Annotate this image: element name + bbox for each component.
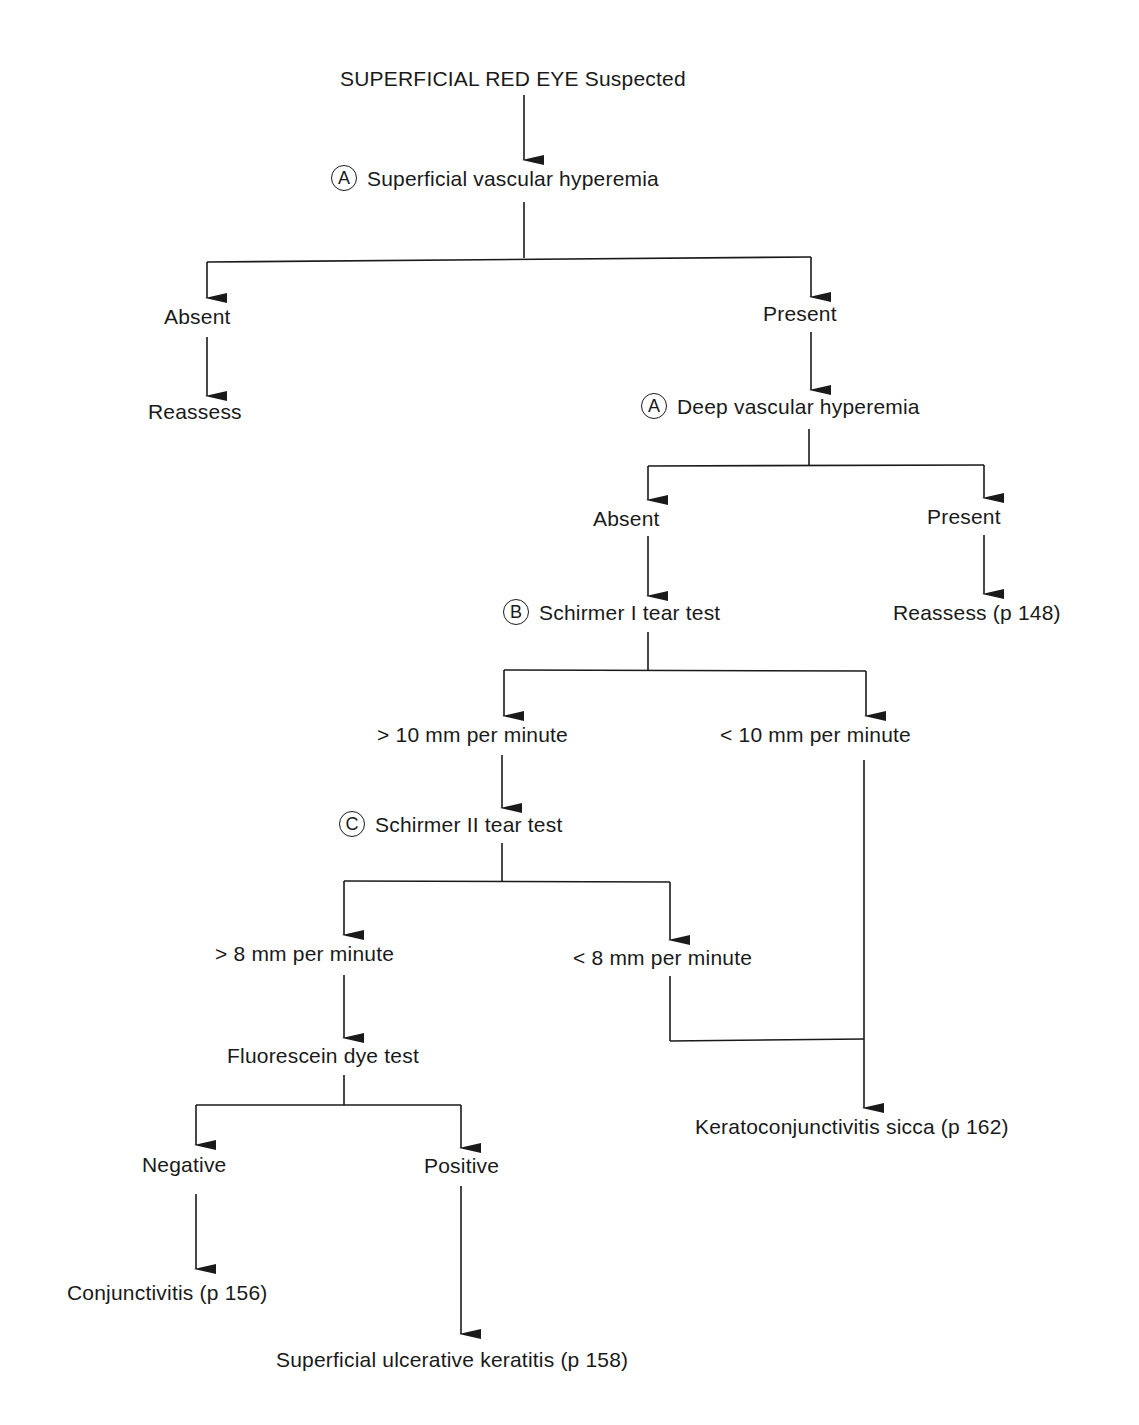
node-superficial-ulcerative-keratitis: Superficial ulcerative keratitis (p 158) bbox=[276, 1349, 628, 1370]
node-dv-present: Present bbox=[927, 506, 1001, 527]
node-gt-8mm: > 8 mm per minute bbox=[215, 943, 394, 964]
flowchart-connectors bbox=[0, 0, 1139, 1425]
step-badge-a: A bbox=[641, 393, 667, 419]
node-lt-8mm: < 8 mm per minute bbox=[573, 947, 752, 968]
step-badge-a: A bbox=[331, 165, 357, 191]
step-badge-b: B bbox=[503, 599, 529, 625]
node-fluorescein-dye-test: Fluorescein dye test bbox=[227, 1045, 419, 1066]
node-dv-absent: Absent bbox=[593, 508, 660, 529]
node-deep-vascular-hyperemia: ADeep vascular hyperemia bbox=[641, 395, 920, 421]
node-superficial-vascular-hyperemia: ASuperficial vascular hyperemia bbox=[331, 167, 659, 193]
node-negative: Negative bbox=[142, 1154, 226, 1175]
node-lt-10mm: < 10 mm per minute bbox=[720, 724, 911, 745]
node-reassess-p148: Reassess (p 148) bbox=[893, 602, 1061, 623]
node-conjunctivitis: Conjunctivitis (p 156) bbox=[67, 1282, 268, 1303]
node-positive: Positive bbox=[424, 1155, 499, 1176]
node-root: SUPERFICIAL RED EYE Suspected bbox=[340, 68, 686, 89]
node-keratoconjunctivitis-sicca: Keratoconjunctivitis sicca (p 162) bbox=[695, 1116, 1009, 1137]
step-badge-c: C bbox=[339, 811, 365, 837]
node-schirmer-2: CSchirmer II tear test bbox=[339, 813, 562, 839]
node-sv-absent: Absent bbox=[164, 306, 231, 327]
node-gt-10mm: > 10 mm per minute bbox=[377, 724, 568, 745]
node-reassess: Reassess bbox=[148, 401, 242, 422]
node-schirmer-1: BSchirmer I tear test bbox=[503, 601, 720, 627]
node-sv-present: Present bbox=[763, 303, 837, 324]
